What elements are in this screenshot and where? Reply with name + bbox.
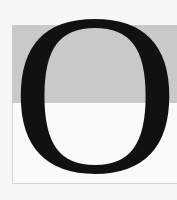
drop-cap-letter: O bbox=[10, 0, 177, 194]
